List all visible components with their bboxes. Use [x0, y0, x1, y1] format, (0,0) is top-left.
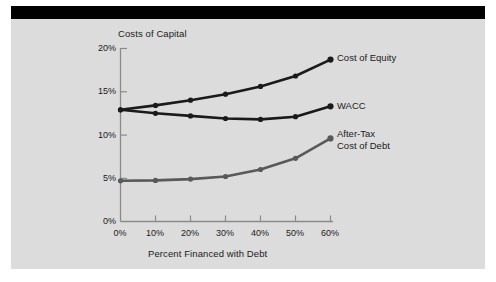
series-label-wacc: WACC [337, 100, 366, 112]
series-line-cost-of-equity [121, 60, 331, 110]
series-label-after-tax-line2: Cost of Debt [337, 140, 390, 152]
chart-figure: Costs of Capital Percent Financed with D… [0, 0, 496, 282]
series-label-after-tax-cost-of-debt: After-Tax Cost of Debt [337, 128, 390, 152]
x-tick-label-0: 0% [103, 228, 137, 238]
x-axis-title: Percent Financed with Debt [148, 248, 267, 259]
y-tick-label-10: 10% [86, 130, 116, 140]
series-markers-after-tax-cost-of-debt [118, 135, 334, 183]
series-label-after-tax-line1: After-Tax [337, 128, 390, 140]
x-tick-label-50: 50% [278, 228, 312, 238]
y-tick-marks [121, 49, 128, 179]
y-tick-label-15: 15% [86, 86, 116, 96]
x-tick-label-40: 40% [243, 228, 277, 238]
plot-area [0, 0, 496, 282]
x-tick-label-10: 10% [138, 228, 172, 238]
x-tick-marks [156, 216, 331, 222]
chart-title: Costs of Capital [118, 28, 187, 39]
y-tick-label-20: 20% [86, 43, 116, 53]
series-label-cost-of-equity: Cost of Equity [337, 52, 396, 64]
x-tick-label-30: 30% [208, 228, 242, 238]
series-markers-cost-of-equity [118, 57, 334, 113]
x-tick-label-60: 60% [313, 228, 347, 238]
y-tick-label-0: 0% [86, 216, 116, 226]
y-tick-label-5: 5% [86, 173, 116, 183]
x-tick-label-20: 20% [173, 228, 207, 238]
